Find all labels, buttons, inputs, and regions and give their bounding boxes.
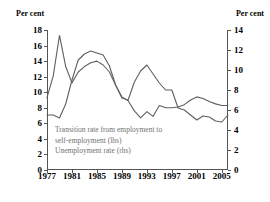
x-tick-label-1985: 1985 [88,172,106,181]
right-tick-label-12: 12 [234,46,243,55]
right-tick-label-0: 0 [234,166,239,175]
chart-figure: Per cent Per cent 024681012141618 024681… [0,0,270,202]
right-tick-8 [228,90,231,91]
legend-line-3: Unemployment rate (rhs) [55,146,225,157]
right-tick-label-4: 4 [234,126,239,135]
right-axis-title: Per cent [236,9,264,18]
right-tick-2 [228,150,231,151]
legend-line-2: self-employment (lhs) [55,136,225,147]
right-tick-label-8: 8 [234,86,239,95]
left-tick-label-6: 6 [38,119,43,128]
right-tick-4 [228,130,231,131]
series-line-unemployment-rate [47,51,228,122]
left-tick-label-4: 4 [38,134,43,143]
right-tick-6 [228,110,231,111]
x-tick-label-2001: 2001 [188,172,206,181]
x-tick-label-1993: 1993 [138,172,156,181]
left-tick-label-10: 10 [33,88,42,97]
x-tick-label-2005: 2005 [213,172,231,181]
right-tick-10 [228,70,231,71]
left-axis-title: Per cent [16,9,44,18]
x-tick-label-1981: 1981 [63,172,81,181]
right-tick-label-6: 6 [234,106,239,115]
right-tick-label-10: 10 [234,66,243,75]
right-tick-14 [228,30,231,31]
left-tick-label-12: 12 [33,72,42,81]
legend: Transition rate from employment to self-… [55,125,225,157]
left-tick-label-16: 16 [33,41,42,50]
x-tick-label-1997: 1997 [163,172,181,181]
right-tick-label-2: 2 [234,146,239,155]
legend-line-1: Transition rate from employment to [55,125,225,136]
x-tick-label-1989: 1989 [113,172,131,181]
left-tick-label-18: 18 [33,26,42,35]
x-tick-label-1977: 1977 [38,172,56,181]
left-tick-label-8: 8 [38,103,43,112]
left-tick-label-2: 2 [38,150,43,159]
right-tick-12 [228,50,231,51]
left-tick-label-14: 14 [33,57,42,66]
right-tick-label-14: 14 [234,26,243,35]
